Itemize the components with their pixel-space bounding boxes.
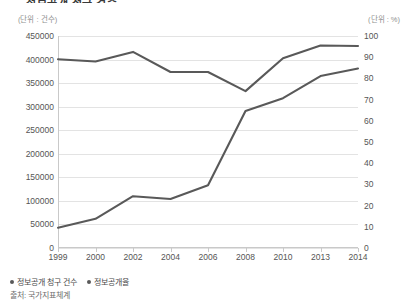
x-axis-tick-label: 2014	[349, 252, 368, 262]
x-axis-tick	[283, 248, 284, 252]
left-axis-tick-label: 450000	[26, 31, 54, 41]
legend-marker-icon	[87, 280, 91, 284]
legend-label: 정보공개율	[94, 276, 129, 287]
x-axis-tick	[171, 248, 172, 252]
left-axis-tick-label: 400000	[26, 55, 54, 65]
left-axis-tick-label: 350000	[26, 78, 54, 88]
right-axis-tick-label: 30	[364, 179, 373, 189]
left-axis-tick-label: 250000	[26, 125, 54, 135]
right-axis-tick-label: 100	[364, 31, 378, 41]
x-axis-tick-label: 2004	[161, 252, 180, 262]
chart-container: 정보공개 청구 건수 (단위 : 건수) (단위 : %) 0500001000…	[0, 0, 410, 307]
page-title: 정보공개 청구 건수	[26, 0, 117, 3]
right-axis-tick-label: 20	[364, 201, 373, 211]
legend-label: 정보공개 청구 건수	[17, 276, 77, 287]
right-axis-tick-label: 80	[364, 73, 373, 83]
right-axis-tick-label: 40	[364, 158, 373, 168]
right-axis-tick-label: 10	[364, 222, 373, 232]
series-lines	[58, 36, 358, 248]
x-axis-tick	[96, 248, 97, 252]
x-axis-tick	[321, 248, 322, 252]
x-axis-tick	[358, 248, 359, 252]
series-line	[58, 69, 358, 228]
x-axis-tick-label: 2002	[124, 252, 143, 262]
x-axis-tick	[208, 248, 209, 252]
chart-legend: 정보공개 청구 건수정보공개율	[10, 276, 129, 287]
x-axis-tick-label: 1999	[49, 252, 68, 262]
x-axis-tick	[133, 248, 134, 252]
x-axis-tick	[58, 248, 59, 252]
right-axis-tick-label: 50	[364, 137, 373, 147]
legend-marker-icon	[10, 280, 14, 284]
source-note: 출처: 국가지표체계	[10, 289, 70, 300]
plot-area: 0500001000001500002000002500003000003500…	[58, 36, 358, 248]
right-axis-tick-label: 90	[364, 52, 373, 62]
left-axis-tick-label: 100000	[26, 196, 54, 206]
left-axis-tick-label: 200000	[26, 149, 54, 159]
left-axis-tick-label: 300000	[26, 102, 54, 112]
right-axis-tick-label: 60	[364, 116, 373, 126]
left-axis-unit-label: (단위 : 건수)	[18, 13, 57, 24]
x-axis-tick-label: 2010	[274, 252, 293, 262]
right-axis-tick-label: 70	[364, 95, 373, 105]
left-axis-tick-label: 150000	[26, 172, 54, 182]
left-axis-tick-label: 50000	[30, 219, 54, 229]
legend-item[interactable]: 정보공개 청구 건수	[10, 276, 77, 287]
x-axis-tick-label: 2006	[199, 252, 218, 262]
x-axis-tick-label: 2008	[236, 252, 255, 262]
series-line	[58, 46, 358, 92]
right-axis-unit-label: (단위 : %)	[368, 13, 400, 24]
x-axis-tick-label: 2013	[311, 252, 330, 262]
x-axis-tick	[246, 248, 247, 252]
legend-item[interactable]: 정보공개율	[87, 276, 129, 287]
x-axis-tick-label: 2000	[86, 252, 105, 262]
